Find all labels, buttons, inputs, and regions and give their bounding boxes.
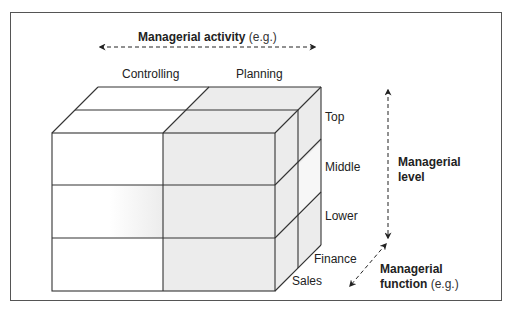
level-label-middle: Middle [325,160,360,174]
activity-label-controlling: Controlling [122,67,179,81]
shaded-planning-region [110,87,321,291]
activity-label-planning: Planning [236,67,283,81]
function-axis-title-line1: Managerial [380,262,443,276]
activity-title-text: Managerial activity [138,30,245,44]
function-axis-title-line2-wrap: function (e.g.) [380,277,459,291]
level-label-lower: Lower [325,209,358,223]
activity-eg: (e.g.) [249,30,277,44]
function-title-text: function [380,277,427,291]
level-label-top: Top [325,110,344,124]
activity-axis-title: Managerial activity (e.g.) [138,30,277,44]
function-label-sales: Sales [292,274,322,288]
function-eg: (e.g.) [431,277,459,291]
level-axis-title-line2: level [398,170,425,184]
level-axis-title-line1: Managerial [398,155,461,169]
function-label-finance: Finance [314,252,357,266]
